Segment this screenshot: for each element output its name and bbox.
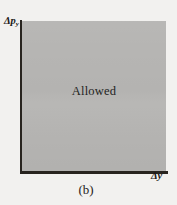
y-axis-label-symbol: Δp: [4, 15, 16, 26]
x-axis-label: Δy: [151, 171, 162, 182]
y-axis-label: Δpy: [4, 16, 19, 27]
figure-panel-b: Allowed Δpy Δy (b): [0, 0, 177, 205]
y-axis-line: [20, 20, 22, 174]
allowed-region-label: Allowed: [22, 84, 166, 98]
x-axis-line: [20, 171, 168, 173]
y-axis-label-subscript: y: [16, 20, 19, 28]
allowed-region-shading: Allowed: [22, 21, 166, 171]
figure-caption: (b): [0, 182, 172, 198]
